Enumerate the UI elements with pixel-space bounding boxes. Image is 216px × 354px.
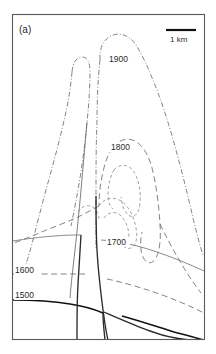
figure-panel-a: 1 km (a) 1900 1800 1700 1600 1500: [0, 0, 216, 354]
contour-1900-left-tongue: [71, 57, 90, 226]
contour-1500: [13, 300, 103, 313]
contour-1500-right: [122, 316, 204, 340]
valley-line-confluence: [104, 312, 196, 340]
scalebar-label: 1 km: [170, 35, 188, 44]
contour-label-1600: 1600: [15, 265, 34, 275]
contour-label-1800: 1800: [111, 142, 130, 152]
contour-1700-left-segment: [13, 235, 81, 241]
contour-1800-right-tail: [160, 224, 201, 293]
contour-label-1500: 1500: [15, 290, 34, 300]
contour-1800-inner-loop-left: [108, 170, 114, 209]
valley-line-east: [96, 196, 108, 340]
valley-line-west: [77, 235, 81, 340]
contour-1800-inner-loop: [114, 165, 140, 216]
panel-label: (a): [19, 24, 31, 35]
contour-label-1700: 1700: [107, 237, 126, 247]
contour-label-1900: 1900: [109, 54, 128, 64]
contour-map-canvas: 1 km (a) 1900 1800 1700 1600 1500: [0, 0, 216, 354]
contour-1800-west-branch: [14, 206, 99, 243]
contour-1600-right: [107, 279, 204, 313]
contour-1800-lower-arc-b: [104, 213, 129, 237]
